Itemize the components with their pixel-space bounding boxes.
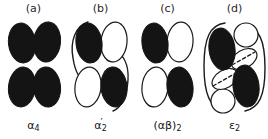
- subunit-bottom-right: [99, 66, 129, 108]
- subunit-top-right: [165, 21, 194, 63]
- subunit-bottom-left-circle: [211, 89, 235, 113]
- panel-a-artwork: [0, 16, 67, 120]
- figure-protein-subunit-arrangements: (a) α4 (b): [0, 0, 268, 139]
- subunit-group-a: [6, 21, 62, 109]
- subunit-top-right: [99, 21, 129, 63]
- panel-c-artwork: [134, 16, 201, 120]
- panel-d-artwork: [201, 16, 268, 120]
- subunit-top-right-circle: [234, 23, 258, 47]
- panel-epsilon-2: (d): [201, 0, 268, 139]
- panel-a-caption-subscript: 4: [35, 124, 40, 133]
- panel-label-c: (c): [134, 2, 201, 15]
- panel-c-caption-base: (αβ): [154, 119, 177, 132]
- subunit-group-d: [207, 23, 262, 113]
- panel-label-b: (b): [67, 2, 134, 15]
- subunit-group-b: [73, 21, 129, 109]
- subunit-top-right: [31, 21, 62, 64]
- subunit-top-left: [140, 22, 171, 65]
- panel-a-caption-base: α: [27, 119, 34, 132]
- panel-b-artwork: [67, 16, 134, 120]
- subunit-group-c: [140, 21, 196, 108]
- subunit-bottom-right: [165, 66, 196, 109]
- panel-a-caption: α4: [0, 119, 67, 135]
- panel-c-caption-subscript: 2: [176, 124, 181, 133]
- panel-alpha4: (a) α4: [0, 0, 67, 139]
- panel-d-caption-subscript: 2: [235, 124, 240, 133]
- panel-alpha-beta-2: (c) (αβ)2: [134, 0, 201, 139]
- panel-d-caption: ε2: [201, 119, 268, 135]
- subunit-bottom-left: [140, 66, 170, 108]
- panel-b-caption: α′2: [67, 116, 134, 135]
- panel-label-a: (a): [0, 2, 67, 15]
- panel-label-d: (d): [201, 2, 268, 15]
- subunit-bottom-right: [31, 66, 62, 109]
- panel-alpha-prime-2: (b) α′2: [67, 0, 134, 139]
- panel-c-caption: (αβ)2: [134, 119, 201, 135]
- panel-b-caption-subscript: 2: [102, 124, 107, 133]
